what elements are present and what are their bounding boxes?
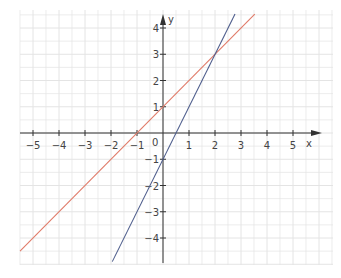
line-blue-y-equals-2x-minus-1 xyxy=(112,14,235,262)
x-axis-label: x xyxy=(306,138,312,149)
x-tick-label: −1 xyxy=(130,140,145,151)
y-tick-label: 2 xyxy=(153,76,159,87)
x-tick-label: 5 xyxy=(290,140,296,151)
x-axis-arrow-icon xyxy=(311,130,322,136)
x-tick-label: −3 xyxy=(78,140,93,151)
x-tick-label: −5 xyxy=(26,140,41,151)
x-tick-label: 1 xyxy=(186,140,192,151)
y-tick-label: −3 xyxy=(144,207,159,218)
x-tick-label: −2 xyxy=(104,140,119,151)
x-tick-label: −4 xyxy=(52,140,67,151)
x-tick-label: 3 xyxy=(238,140,244,151)
y-tick-label: 4 xyxy=(153,23,159,34)
coordinate-plot: x y 0 −5−4−3−2−112345−4−3−2−11234 xyxy=(0,0,341,278)
y-axis-arrow-icon xyxy=(160,14,166,25)
y-tick-label: 3 xyxy=(153,49,159,60)
x-tick-label: 4 xyxy=(264,140,270,151)
axes: x y 0 xyxy=(20,14,322,263)
origin-label: 0 xyxy=(152,137,158,148)
y-tick-label: −1 xyxy=(144,154,159,165)
y-tick-label: −4 xyxy=(144,233,159,244)
grid xyxy=(20,10,333,265)
x-tick-label: 2 xyxy=(212,140,218,151)
y-axis-label: y xyxy=(168,14,174,25)
